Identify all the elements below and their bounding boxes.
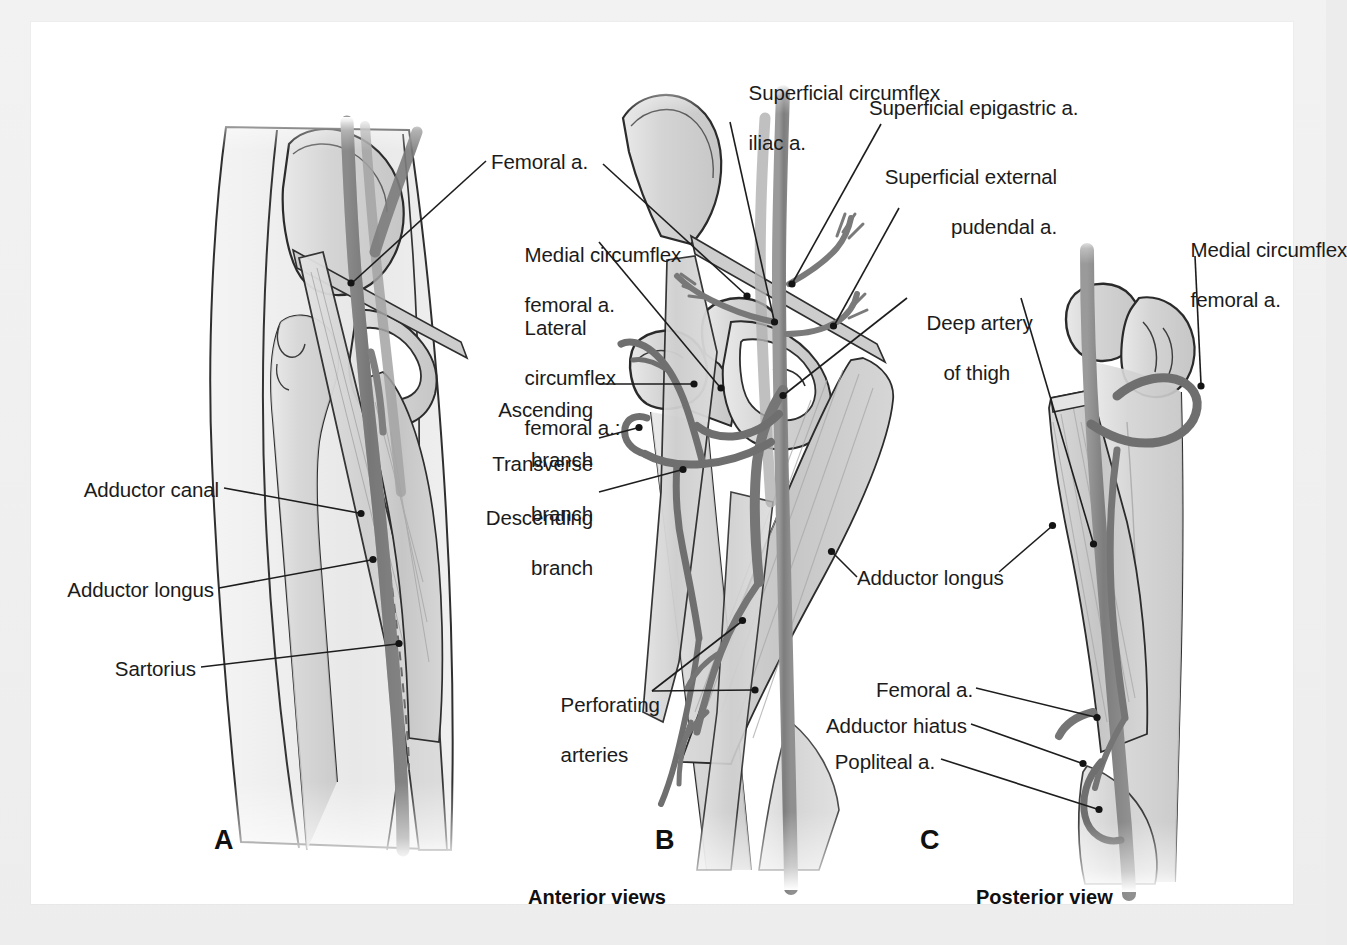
label-line-2: femoral a. — [1191, 288, 1281, 311]
label-femoral-a: Femoral a. — [491, 149, 588, 174]
label-line-1: Superficial external — [885, 165, 1057, 188]
label-line-1: Ascending — [498, 398, 593, 421]
label-line-1: Perforating — [561, 693, 660, 716]
caption-posterior-view: Posterior view — [976, 886, 1113, 909]
label-line-2: branch — [531, 556, 593, 579]
label-line-1: Lateral — [525, 316, 587, 339]
label-superficial-external-pudendal-a: Superficial external pudendal a. — [731, 139, 1057, 264]
label-popliteal-a: Popliteal a. — [801, 749, 935, 774]
label-descending-branch: Descending branch — [401, 480, 593, 605]
label-medial-circumflex-femoral-a-c: Medial circumflex femoral a. — [1157, 212, 1347, 337]
figure-plate: Adductor canal Adductor longus Sartorius… — [31, 22, 1293, 904]
label-adductor-canal: Adductor canal — [31, 477, 219, 502]
anatomy-illustration — [31, 22, 1293, 904]
label-adductor-longus-b: Adductor longus — [857, 565, 1004, 590]
label-superficial-epigastric-a: Superficial epigastric a. — [869, 95, 1078, 120]
label-femoral-a-c: Femoral a. — [821, 677, 973, 702]
label-line-1: Deep artery — [927, 311, 1033, 334]
label-sartorius: Sartorius — [31, 656, 196, 681]
label-line-2: arteries — [561, 743, 629, 766]
panel-letter-c: C — [920, 825, 940, 856]
label-line-1: Medial circumflex — [525, 243, 682, 266]
label-line-2: pudendal a. — [951, 215, 1057, 238]
label-line-1: Medial circumflex — [1191, 238, 1347, 261]
label-adductor-hiatus: Adductor hiatus — [791, 713, 967, 738]
label-adductor-longus-a: Adductor longus — [31, 577, 214, 602]
label-line-1: Descending — [486, 506, 593, 529]
label-line-1: Transverse — [492, 452, 593, 475]
label-deep-artery-of-thigh: Deep artery of thigh — [893, 285, 1027, 410]
caption-anterior-views: Anterior views — [528, 886, 666, 909]
label-line-2: of thigh — [944, 361, 1010, 384]
panel-letter-b: B — [655, 825, 675, 856]
panel-letter-a: A — [214, 825, 234, 856]
label-perforating-arteries: Perforating arteries — [527, 667, 660, 792]
